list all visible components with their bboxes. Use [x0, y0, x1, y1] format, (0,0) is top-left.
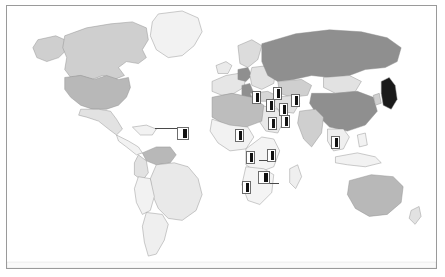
- map-marker[interactable]: [331, 136, 340, 149]
- map-marker[interactable]: [291, 94, 300, 107]
- region-philippines: [357, 133, 367, 147]
- map-marker[interactable]: [177, 127, 189, 140]
- map-frame-border: [6, 5, 437, 269]
- world-map-svg: [7, 6, 436, 268]
- map-canvas: [7, 6, 436, 268]
- map-marker[interactable]: [235, 129, 244, 142]
- map-marker[interactable]: [266, 99, 275, 112]
- marker-leader-line: [270, 183, 279, 184]
- map-marker[interactable]: [246, 151, 255, 164]
- map-marker[interactable]: [258, 171, 270, 184]
- map-marker[interactable]: [252, 91, 261, 104]
- world-map-figure: [0, 0, 445, 277]
- map-marker[interactable]: [242, 181, 251, 194]
- map-marker[interactable]: [281, 115, 290, 128]
- map-marker[interactable]: [268, 117, 277, 130]
- map-marker[interactable]: [267, 149, 276, 162]
- region-antarctic-edge: [7, 262, 436, 268]
